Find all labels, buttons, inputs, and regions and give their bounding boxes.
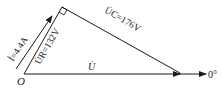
reference-angle-label: 0°: [208, 69, 217, 80]
origin-label: O: [17, 75, 25, 87]
label-capacitor-voltage: U̇C=176V: [103, 4, 143, 33]
phasor-diagram: O 0° U̇ İ=4.4A U̇R=132V U̇C=176V: [0, 0, 221, 96]
label-total-voltage: U̇: [88, 61, 96, 72]
label-current: İ=4.4A: [6, 34, 30, 63]
label-resistor-voltage: U̇R=132V: [32, 26, 61, 66]
